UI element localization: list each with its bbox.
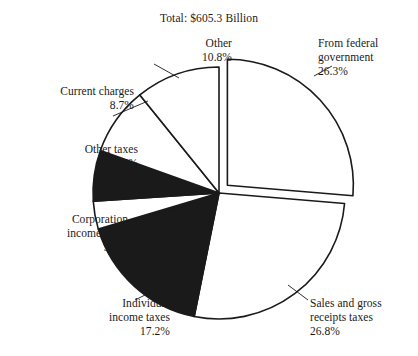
slice-label-text: Current charges (60, 84, 134, 98)
slice-value-text: 3.6% (67, 240, 128, 254)
slice-value-text: 26.3% (318, 64, 378, 78)
slice-label-other-taxes: Other taxes6.5% (85, 142, 138, 170)
slice-label-text: income taxes (109, 310, 170, 324)
slice-value-text: 10.8% (202, 50, 232, 64)
slice-label-other: Other10.8% (202, 36, 232, 64)
slice-label-text: Corporation (67, 212, 128, 226)
slice-label-individual-income-taxes: Individualincome taxes17.2% (109, 296, 170, 339)
slice-label-text: Other (202, 36, 232, 50)
leader-line-other (154, 64, 179, 78)
slice-label-text: receipts taxes (310, 310, 382, 324)
slice-value-text: 6.5% (85, 156, 138, 170)
slice-label-sales-and-gross-receipts-taxes: Sales and grossreceipts taxes26.8% (310, 296, 382, 339)
slice-label-text: Sales and gross (310, 296, 382, 310)
slice-label-text: income taxes (67, 226, 128, 240)
slice-label-text: Other taxes (85, 142, 138, 156)
slice-label-text: Individual (109, 296, 170, 310)
slice-value-text: 17.2% (109, 324, 170, 338)
slice-label-text: From federal (318, 36, 378, 50)
slice-label-text: government (318, 50, 378, 64)
slice-label-current-charges: Current charges8.7% (60, 84, 134, 112)
slice-label-from-federal-government: From federalgovernment26.3% (318, 36, 378, 79)
slice-label-corporation-income-taxes: Corporationincome taxes3.6% (67, 212, 128, 255)
pie-chart-figure: Total: $605.3 Billion From federalgovern… (0, 0, 418, 356)
slice-value-text: 8.7% (60, 98, 134, 112)
slice-value-text: 26.8% (310, 324, 382, 338)
pie-slice-from-federal-government[interactable] (227, 59, 353, 195)
